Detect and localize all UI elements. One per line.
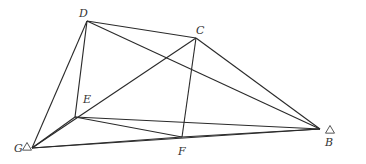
- edges-group: [32, 21, 320, 148]
- edge-db: [87, 21, 320, 129]
- point-label-g: G: [14, 142, 23, 155]
- edge-fb: [182, 129, 320, 137]
- point-label-e: E: [82, 93, 91, 106]
- point-label-c: C: [196, 24, 205, 37]
- edge-cg: [32, 38, 196, 148]
- point-label-f: F: [177, 145, 186, 158]
- edge-eb: [75, 117, 320, 129]
- triangle-marker-icon-g: [23, 143, 32, 151]
- point-label-d: D: [78, 7, 88, 20]
- geometric-diagram: DCEGFB: [0, 0, 366, 164]
- triangle-marker-icon-b: [326, 126, 335, 134]
- edge-dc: [87, 21, 196, 38]
- point-label-b: B: [324, 136, 333, 149]
- edge-cb: [196, 38, 320, 129]
- edge-gf: [32, 137, 182, 148]
